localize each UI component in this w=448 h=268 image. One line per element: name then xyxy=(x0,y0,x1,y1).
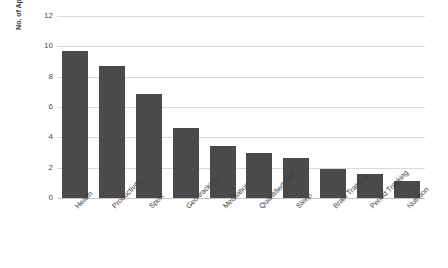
y-tick-label: 4 xyxy=(23,133,53,141)
bar-geo-tracking[interactable] xyxy=(173,128,199,198)
gridline xyxy=(57,198,425,199)
y-tick-label: 2 xyxy=(23,164,53,172)
bar-chart: No. of Applications (in Millions) 024681… xyxy=(0,0,448,268)
plot-area xyxy=(57,16,425,198)
y-tick-label: 10 xyxy=(23,42,53,50)
bar-meditation[interactable] xyxy=(210,146,236,198)
y-axis-tick-labels: 024681012 xyxy=(19,16,53,198)
x-axis-tick-labels: HealthProductivitySportGeo trackingMedit… xyxy=(57,200,425,266)
y-tick-label: 0 xyxy=(23,194,53,202)
bars-layer xyxy=(57,16,425,198)
y-tick-label: 8 xyxy=(23,73,53,81)
bar-health[interactable] xyxy=(62,51,88,198)
bar-productivity[interactable] xyxy=(99,66,125,198)
y-tick-label: 6 xyxy=(23,103,53,111)
y-tick-label: 12 xyxy=(23,12,53,20)
